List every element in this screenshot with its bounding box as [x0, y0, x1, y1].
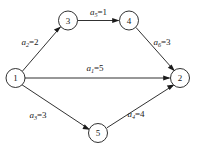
edge-1-to-3-line [22, 27, 60, 72]
edge-label-group: a2=2 a5=1 a6=3 a1=5 a3=3 a4=4 [21, 7, 171, 121]
edge-3-to-4-arrowhead [112, 18, 119, 23]
edge-label-1-to-3: a2=2 [21, 37, 38, 48]
edge-label-3-to-4: a5=1 [90, 7, 107, 18]
node-3-label: 3 [66, 16, 71, 26]
edge-label-4-to-2: a6=3 [153, 37, 171, 48]
node-1: 1 [6, 69, 25, 88]
node-5-label: 5 [96, 128, 101, 138]
node-2: 2 [171, 69, 190, 88]
edge-1-to-5 [22, 85, 90, 130]
node-2-label: 2 [178, 73, 183, 83]
edge-1-to-5-line [22, 85, 89, 129]
edge-label-1-to-5: a3=3 [29, 110, 47, 121]
graph-canvas: a2=2 a5=1 a6=3 a1=5 a3=3 a4=4 1 2 3 [0, 0, 197, 151]
node-group: 1 2 3 4 5 [6, 11, 190, 143]
edge-5-to-2 [107, 85, 175, 128]
node-5: 5 [89, 124, 108, 143]
edge-label-1-to-2: a1=5 [86, 63, 104, 74]
edge-label-5-to-2: a4=4 [127, 109, 145, 120]
edge-3-to-4 [78, 18, 120, 23]
network-diagram: a2=2 a5=1 a6=3 a1=5 a3=3 a4=4 1 2 3 [0, 0, 197, 151]
edge-1-to-2 [25, 75, 171, 80]
edge-4-to-2 [136, 27, 175, 71]
node-3: 3 [59, 11, 78, 30]
edge-5-to-2-line [107, 85, 173, 128]
edge-1-to-2-arrowhead [163, 75, 170, 80]
edge-4-to-2-line [136, 27, 174, 70]
node-4: 4 [120, 11, 139, 30]
edge-1-to-3-arrowhead [54, 27, 61, 33]
node-1-label: 1 [13, 73, 18, 83]
edge-1-to-3 [22, 27, 61, 72]
node-4-label: 4 [127, 16, 132, 26]
